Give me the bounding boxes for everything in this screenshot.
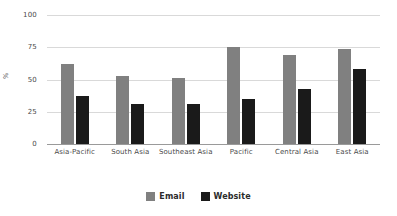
bar-email[interactable] [116,76,129,144]
bar-group [158,15,214,144]
bar-group [214,15,270,144]
y-tick-label: 25 [28,108,37,116]
bar-chart: % 0255075100 Asia-PacificSouth AsiaSouth… [0,0,397,216]
y-tick-label: 0 [32,140,37,148]
x-tick-label: South Asia [103,148,159,157]
legend-item-website[interactable]: Website [201,192,251,201]
bar-email[interactable] [283,55,296,144]
bar-website[interactable] [187,104,200,144]
bar-group [269,15,325,144]
bar-group [103,15,159,144]
y-tick-label: 50 [28,76,37,84]
x-axis-tick-labels: Asia-PacificSouth AsiaSoutheast AsiaPaci… [47,148,380,178]
y-axis-tick-labels: 0255075100 [0,15,42,144]
legend-label: Email [159,192,184,201]
bar-website[interactable] [353,69,366,144]
y-tick-label: 75 [28,43,37,51]
legend-label: Website [214,192,251,201]
axis-baseline [47,144,380,145]
legend-swatch-icon [201,192,210,201]
legend-item-email[interactable]: Email [146,192,184,201]
bar-website[interactable] [76,96,89,144]
bar-group [47,15,103,144]
x-tick-label: Asia-Pacific [47,148,103,157]
x-tick-label: Pacific [214,148,270,157]
x-tick-label: Southeast Asia [158,148,214,157]
x-tick-label: East Asia [325,148,381,157]
plot-area [47,15,380,144]
y-tick-label: 100 [23,11,37,19]
bar-email[interactable] [227,47,240,144]
x-tick-label: Central Asia [269,148,325,157]
legend-swatch-icon [146,192,155,201]
bar-website[interactable] [298,89,311,144]
bar-group [325,15,381,144]
chart-legend: EmailWebsite [0,192,397,201]
bar-website[interactable] [242,99,255,144]
bar-email[interactable] [172,78,185,144]
bar-email[interactable] [338,49,351,144]
bar-website[interactable] [131,104,144,144]
bar-email[interactable] [61,64,74,144]
